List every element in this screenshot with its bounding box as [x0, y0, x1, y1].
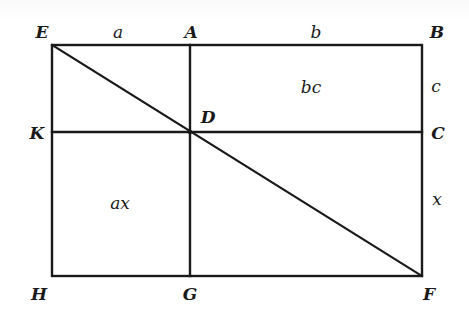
- label-point-E: E: [36, 24, 49, 41]
- label-point-K: K: [30, 125, 45, 142]
- label-point-G: G: [183, 286, 198, 303]
- diagonal-line-EF: [52, 45, 422, 276]
- label-point-H: H: [31, 286, 47, 303]
- label-point-F: F: [423, 286, 435, 303]
- label-point-A: A: [184, 24, 197, 41]
- label-length-a: a: [113, 24, 123, 41]
- label-point-C: C: [431, 125, 445, 142]
- label-area-ax: ax: [110, 195, 130, 212]
- label-length-x: x: [432, 191, 442, 208]
- geometric-diagram: [0, 0, 469, 321]
- label-area-bc: bc: [301, 79, 321, 96]
- label-point-B: B: [430, 24, 444, 41]
- label-length-b: b: [311, 24, 322, 41]
- label-point-D: D: [201, 109, 216, 126]
- intersection-point-D: [188, 130, 192, 134]
- label-length-c: c: [431, 78, 441, 95]
